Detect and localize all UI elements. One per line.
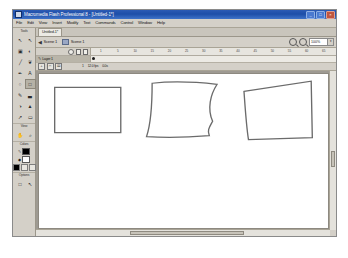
menu-view[interactable]: View: [38, 20, 48, 26]
window-controls: _ □ ×: [306, 11, 335, 19]
layer-row-layer-1[interactable]: ✎ Layer 1: [36, 56, 91, 62]
stroke-color-swatch[interactable]: [22, 148, 30, 155]
black-and-white-icon[interactable]: [13, 164, 20, 171]
ruler-tick: 55: [288, 49, 291, 53]
view-tools-grid: ✋ ⌕: [15, 130, 34, 140]
ruler-tick: 65: [322, 49, 325, 53]
current-scene-indicator[interactable]: Scene 1: [62, 39, 84, 45]
tools-section-view-label: View: [13, 123, 35, 129]
distorted-trapezoid-shape[interactable]: [147, 82, 218, 137]
brush-tool[interactable]: ▃: [25, 90, 36, 100]
document-tab-strip: Untitled-1*: [36, 28, 336, 37]
elapsed-time-value: 0.0s: [102, 64, 108, 69]
document-tab[interactable]: Untitled-1*: [38, 28, 62, 36]
minimize-button[interactable]: _: [306, 11, 315, 19]
ruler-tick: 20: [168, 49, 171, 53]
workspace: Untitled-1* ◀ Scene 1 Scene 1: [36, 28, 336, 236]
tools-panel: Tools ↖ ↖ ▣ ◐ ╱ ❦ ✒ A ○ □ ✎ ▃ ◑ ▲ ↗ ▭ Vi…: [13, 28, 36, 236]
menu-insert[interactable]: Insert: [51, 20, 63, 26]
menu-modify[interactable]: Modify: [66, 20, 79, 26]
delete-layer-icon[interactable]: ⌧: [55, 63, 62, 70]
rectangle-shape[interactable]: [55, 87, 121, 132]
ruler-tick: 50: [271, 49, 274, 53]
ruler-tick: 25: [185, 49, 188, 53]
frame-ruler[interactable]: 1 5 10 15 20 25 30 35 40 45 50 55 60 65: [91, 48, 336, 55]
stage-horizontal-scrollbar[interactable]: [36, 229, 330, 236]
menu-file[interactable]: File: [15, 20, 23, 26]
window-title: Macromedia Flash Professional 8 - [Untit…: [24, 12, 306, 17]
title-bar: Macromedia Flash Professional 8 - [Untit…: [13, 10, 336, 19]
ruler-tick: 5: [117, 49, 119, 53]
horizontal-scroll-thumb[interactable]: [130, 231, 244, 235]
ruler-tick: 1: [100, 49, 102, 53]
scene-bar-left: ◀ Scene 1 Scene 1: [38, 39, 289, 45]
timeline-layer-row[interactable]: ✎ Layer 1: [36, 56, 336, 63]
fill-color-row[interactable]: ◆: [18, 156, 30, 163]
stroke-color-row[interactable]: ✎: [18, 148, 30, 155]
stage-drawing: [39, 74, 328, 228]
eye-icon[interactable]: [68, 49, 74, 55]
timeline-status: 1 12.0 fps 0.0s: [82, 64, 108, 69]
gradient-transform-tool[interactable]: ◐: [25, 46, 36, 56]
ruler-tick: 45: [253, 49, 256, 53]
menu-control[interactable]: Control: [120, 20, 134, 26]
rectangle-tool[interactable]: □: [25, 79, 36, 89]
text-tool[interactable]: A: [25, 68, 36, 78]
timeline-footer-buttons: + □ ⌧: [38, 63, 62, 70]
new-folder-icon[interactable]: □: [47, 63, 54, 70]
swap-colors-icon[interactable]: [29, 164, 36, 171]
options-grid: □ ↖: [15, 179, 34, 189]
menu-edit[interactable]: Edit: [26, 20, 35, 26]
keyframe-marker[interactable]: [92, 57, 95, 60]
paint-bucket-tool[interactable]: ▲: [25, 101, 36, 111]
tools-section-tools-label: Tools: [13, 29, 35, 34]
menu-help[interactable]: Help: [156, 20, 166, 26]
outline-icon[interactable]: [83, 49, 89, 55]
scene-bar-right: 100% ▾: [289, 38, 334, 46]
scene-label: Scene 1: [71, 39, 85, 45]
ruler-tick: 40: [236, 49, 239, 53]
snap-to-objects-toggle[interactable]: ↖: [25, 179, 36, 189]
layer-frames-track[interactable]: [91, 56, 336, 62]
layer-name-label: Layer 1: [42, 57, 53, 61]
zoom-tool[interactable]: ⌕: [25, 130, 36, 140]
timeline-footer: + □ ⌧ 1 12.0 fps 0.0s: [36, 63, 336, 70]
vertical-scroll-thumb[interactable]: [331, 151, 335, 167]
flash-application-window: Macromedia Flash Professional 8 - [Untit…: [12, 9, 337, 237]
zoom-level-value: 100%: [311, 40, 320, 45]
menu-commands[interactable]: Commands: [94, 20, 116, 26]
application-body: Tools ↖ ↖ ▣ ◐ ╱ ❦ ✒ A ○ □ ✎ ▃ ◑ ▲ ↗ ▭ Vi…: [13, 28, 336, 236]
stage-vertical-scrollbar[interactable]: [329, 71, 336, 230]
fps-value[interactable]: 12.0 fps: [88, 64, 98, 69]
tools-section-options-label: Options: [13, 172, 35, 178]
color-shortcut-buttons: [13, 164, 36, 171]
slanted-quad-shape[interactable]: [244, 81, 312, 140]
ruler-tick: 60: [305, 49, 308, 53]
lasso-tool[interactable]: ❦: [25, 57, 36, 67]
close-button[interactable]: ×: [326, 11, 335, 19]
maximize-button[interactable]: □: [316, 11, 325, 19]
zoom-out-icon[interactable]: [289, 38, 297, 46]
subselection-tool[interactable]: ↖: [25, 35, 36, 45]
tools-grid: ↖ ↖ ▣ ◐ ╱ ❦ ✒ A ○ □ ✎ ▃ ◑ ▲ ↗ ▭: [15, 35, 34, 122]
layer-column-header: [36, 48, 91, 55]
chevron-down-icon[interactable]: ▾: [327, 39, 333, 45]
lock-icon[interactable]: [76, 49, 82, 55]
ruler-tick: 15: [151, 49, 154, 53]
pencil-icon: ✎: [18, 149, 21, 155]
menu-bar: File Edit View Insert Modify Text Comman…: [13, 19, 336, 28]
scrollbar-corner: [330, 230, 336, 236]
no-color-icon[interactable]: [21, 164, 28, 171]
new-layer-icon[interactable]: +: [38, 63, 45, 70]
fill-color-swatch[interactable]: [22, 156, 30, 163]
eraser-tool[interactable]: ▭: [25, 112, 36, 122]
zoom-level-select[interactable]: 100% ▾: [309, 38, 334, 46]
back-to-scene-button[interactable]: ◀ Scene 1: [38, 39, 57, 45]
tools-section-colors-label: Colors: [13, 141, 35, 147]
stage-canvas[interactable]: [38, 73, 329, 229]
menu-text[interactable]: Text: [82, 20, 91, 26]
zoom-in-icon[interactable]: [299, 38, 307, 46]
menu-window[interactable]: Window: [137, 20, 153, 26]
back-arrow-icon: ◀: [38, 39, 42, 45]
current-frame-value: 1: [82, 64, 84, 69]
